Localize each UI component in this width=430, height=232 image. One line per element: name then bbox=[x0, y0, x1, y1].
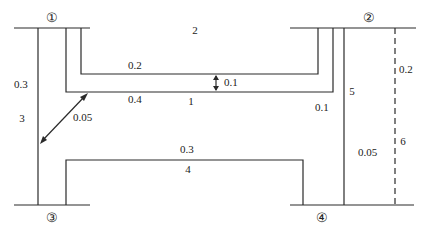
region-4-label: 4 bbox=[185, 163, 191, 175]
gap-dimension-arrow bbox=[213, 75, 219, 91]
node-4-label: ④ bbox=[316, 210, 328, 225]
channel-network-diagram: ① ② ③ ④ 1 2 3 4 5 6 0.3 0.2 0.1 0.4 0.05… bbox=[0, 0, 430, 232]
value-0-4: 0.4 bbox=[128, 93, 142, 105]
value-0-2-right: 0.2 bbox=[399, 63, 413, 75]
region-5-label: 5 bbox=[349, 85, 355, 97]
value-0-1-right: 0.1 bbox=[315, 101, 329, 113]
region-6-label: 6 bbox=[400, 135, 406, 147]
value-0-3-bottom: 0.3 bbox=[180, 143, 194, 155]
node-1-label: ① bbox=[46, 10, 58, 25]
value-0-2-top: 0.2 bbox=[128, 59, 142, 71]
region-2-label: 2 bbox=[192, 24, 198, 36]
value-0-05-left: 0.05 bbox=[73, 111, 93, 123]
region-3-label: 3 bbox=[19, 112, 25, 124]
middle-channel-wall bbox=[66, 28, 333, 92]
region-1-label: 1 bbox=[188, 95, 194, 107]
node-2-label: ② bbox=[363, 10, 375, 25]
value-0-05-right: 0.05 bbox=[358, 146, 378, 158]
value-0-1-gap: 0.1 bbox=[224, 76, 238, 88]
upper-channel-inner-wall bbox=[81, 28, 318, 74]
value-0-3-left: 0.3 bbox=[14, 78, 28, 90]
node-3-label: ③ bbox=[46, 210, 58, 225]
